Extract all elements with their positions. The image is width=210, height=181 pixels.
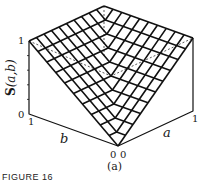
figure-caption: FIGURE 16 (2, 172, 53, 181)
svg-text:S(a,b): S(a,b) (4, 59, 18, 96)
b-tick-1: 1 (28, 116, 34, 127)
z-axis-label: S(a,b) (4, 59, 18, 96)
a-origin-tick: 0 (120, 149, 126, 160)
z-axis-args: (a,b) (4, 59, 18, 87)
b-axis-label: b (60, 131, 68, 146)
surface-plot: 1 0 1 0 0 1 b a S(a,b) (a) (0, 0, 210, 181)
z-tick-1: 1 (18, 35, 24, 46)
panel-label: (a) (107, 160, 122, 173)
a-tick-1: 1 (192, 113, 198, 124)
z-axis-symbol: S (4, 87, 18, 96)
z-tick-0: 0 (18, 109, 24, 120)
a-axis-label: a (163, 125, 171, 140)
b-origin-tick: 0 (110, 149, 116, 160)
mesh-line-a (104, 6, 193, 38)
